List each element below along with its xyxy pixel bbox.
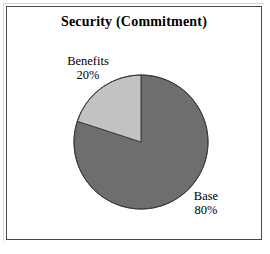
pie-label-benefits: Benefits 20% [57, 54, 119, 82]
pie-label-base-name: Base [177, 189, 235, 203]
pie-label-benefits-value: 20% [57, 68, 119, 82]
chart-root: Security (Commitment) Benefits 20% Base … [0, 0, 270, 254]
outer-bevel-top [3, 3, 264, 4]
pie-label-benefits-name: Benefits [57, 54, 119, 68]
chart-frame: Security (Commitment) Benefits 20% Base … [6, 6, 262, 240]
chart-title: Security (Commitment) [7, 14, 261, 30]
pie-label-base: Base 80% [177, 189, 235, 217]
outer-bevel-left [3, 3, 4, 241]
pie-label-base-value: 80% [177, 203, 235, 217]
